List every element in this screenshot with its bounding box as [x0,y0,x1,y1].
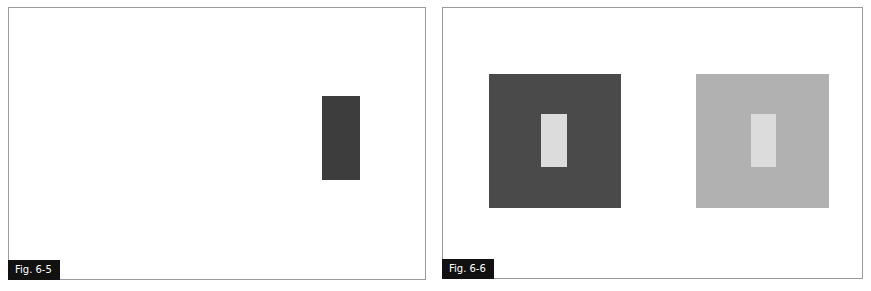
dark-rectangle [322,96,360,180]
figure-label: Fig. 6-6 [442,259,494,279]
figure-6-5-panel: Fig. 6-5 [8,7,426,280]
light-inner-rectangle-on-dark [541,114,567,167]
figure-6-6-panel: Fig. 6-6 [442,7,863,279]
figure-label: Fig. 6-5 [8,260,60,280]
light-inner-rectangle-on-light [751,114,776,167]
